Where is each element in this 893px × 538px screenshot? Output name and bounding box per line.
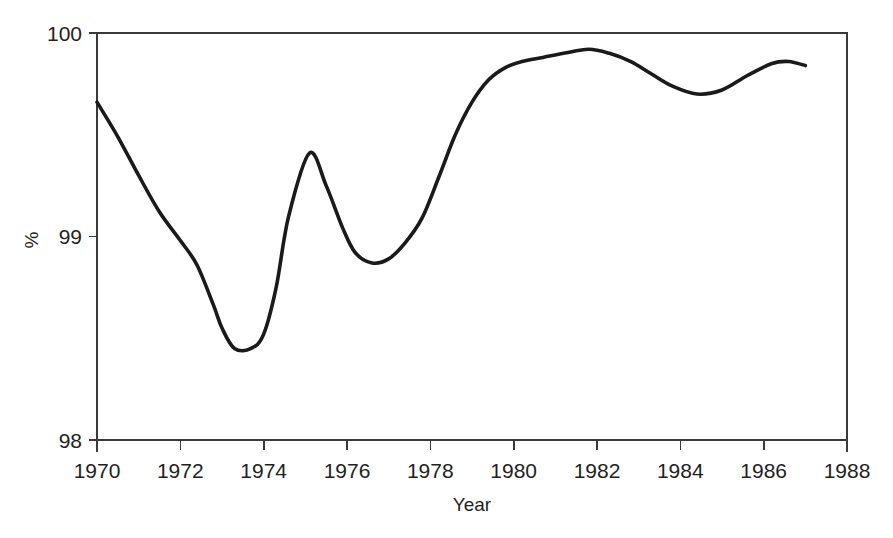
y-axis-title: % [21, 231, 42, 248]
x-tick-label-1988: 1988 [824, 459, 871, 482]
line-chart: 100 99 98 % 1970 1972 1974 1976 1978 198… [0, 0, 893, 538]
x-tick-label-1972: 1972 [157, 459, 204, 482]
x-tick-label-1970: 1970 [74, 459, 121, 482]
y-axis-ticks [89, 33, 97, 440]
y-tick-label-99: 99 [59, 225, 82, 248]
x-tick-label-1984: 1984 [657, 459, 704, 482]
x-tick-label-1980: 1980 [490, 459, 537, 482]
x-axis-title: Year [453, 494, 492, 515]
x-tick-label-1976: 1976 [324, 459, 371, 482]
y-tick-label-100: 100 [47, 22, 82, 45]
plot-frame [97, 33, 847, 440]
x-tick-label-1982: 1982 [574, 459, 621, 482]
x-tick-label-1986: 1986 [740, 459, 787, 482]
y-tick-label-98: 98 [59, 429, 82, 452]
x-tick-label-1974: 1974 [240, 459, 287, 482]
x-tick-label-1978: 1978 [407, 459, 454, 482]
data-series-line [97, 49, 805, 350]
chart-container: 100 99 98 % 1970 1972 1974 1976 1978 198… [0, 0, 893, 538]
